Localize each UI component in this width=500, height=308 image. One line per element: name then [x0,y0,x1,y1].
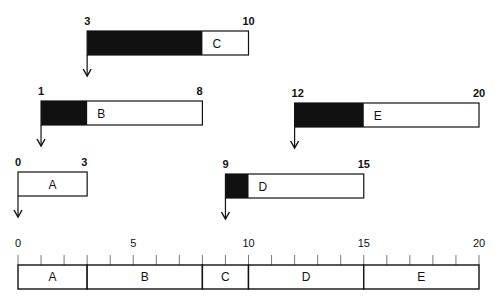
task-d: D915 [221,158,370,219]
timeline-segment-label: B [141,270,149,284]
end-label: 10 [243,15,255,27]
scale-tick-label: 0 [15,237,21,249]
end-label: 20 [473,87,485,99]
task-label: A [49,178,57,192]
task-label: E [374,109,382,123]
task-label: C [212,37,221,51]
timeline-segment-label: C [221,270,230,284]
scale-tick-label: 20 [473,237,485,249]
task-b: B18 [37,85,202,146]
task-bar-filled [225,174,248,198]
timeline: 05101520ABCDE [15,237,485,289]
task-a: A03 [14,156,87,217]
timeline-segment-label: A [49,270,57,284]
scale-tick-label: 15 [358,237,370,249]
task-e: E1220 [291,87,486,148]
start-label: 0 [15,156,21,168]
task-c: C310 [83,15,255,76]
start-label: 1 [38,85,44,97]
task-bar-filled [41,101,87,125]
task-bar-filled [295,103,364,127]
task-bar-filled [87,31,202,55]
start-label: 9 [222,158,228,170]
task-label: D [259,180,268,194]
scale-tick-label: 5 [130,237,136,249]
timeline-segment-label: D [302,270,311,284]
schedule-diagram: A03B18C310D915E122005101520ABCDE [0,0,500,308]
timeline-segment-label: E [417,270,425,284]
task-label: B [97,107,105,121]
end-label: 8 [196,85,202,97]
end-label: 15 [358,158,370,170]
start-label: 12 [292,87,304,99]
end-label: 3 [81,156,87,168]
start-label: 3 [84,15,90,27]
scale-tick-label: 10 [242,237,254,249]
